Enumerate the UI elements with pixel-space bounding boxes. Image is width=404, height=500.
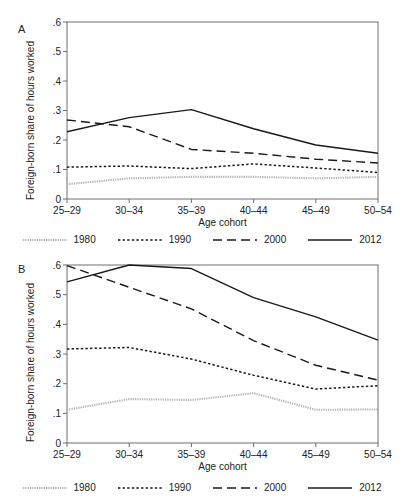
legend-item-2012[interactable]: 2012 <box>308 235 381 245</box>
legend-label-1990: 1990 <box>169 235 191 245</box>
panel-a: A Foreign-born share of hours worked 0.1… <box>0 0 404 250</box>
series-line-2000 <box>67 120 378 163</box>
y-tick-label: 0 <box>55 438 61 449</box>
y-tick-label: 0 <box>55 194 61 205</box>
x-tick-label: 50–54 <box>364 205 392 216</box>
x-tick-label: 30–34 <box>115 205 143 216</box>
x-tick-label: 25–29 <box>53 205 81 216</box>
y-tick-label: .3 <box>53 349 62 360</box>
y-tick-label: .4 <box>53 319 62 330</box>
legend-item-1990[interactable]: 1990 <box>118 483 213 493</box>
y-tick-label: .2 <box>53 378 62 389</box>
x-tick-label: 45–49 <box>302 449 330 460</box>
y-tick-label: .1 <box>53 164 62 175</box>
x-axis-title: Age cohort <box>198 217 247 228</box>
panel-b: B Foreign-born share of hours worked 0.1… <box>0 250 404 500</box>
panel-a-plot-area: 0.1.2.3.4.5.625–2930–3435–3940–4445–4950… <box>0 0 404 232</box>
series-line-1990 <box>67 164 378 173</box>
panel-a-legend: 1980199020002012 <box>0 232 404 248</box>
y-tick-label: .3 <box>53 105 62 116</box>
x-tick-label: 25–29 <box>53 449 81 460</box>
series-line-2012 <box>67 110 378 154</box>
legend-swatch-2000-icon <box>213 235 257 245</box>
x-axis-title: Age cohort <box>198 461 247 472</box>
legend-swatch-2000-icon <box>213 483 257 493</box>
legend-label-1980: 1980 <box>74 235 96 245</box>
legend-label-2012: 2012 <box>359 235 381 245</box>
y-tick-label: .4 <box>53 76 62 87</box>
x-tick-label: 35–39 <box>177 205 205 216</box>
legend-swatch-1980-icon <box>23 235 67 245</box>
legend-item-1980[interactable]: 1980 <box>23 483 118 493</box>
x-tick-label: 40–44 <box>240 205 268 216</box>
legend-item-2000[interactable]: 2000 <box>213 235 308 245</box>
legend-label-2000: 2000 <box>264 483 286 493</box>
x-tick-label: 45–49 <box>302 205 330 216</box>
y-tick-label: .6 <box>53 17 62 28</box>
panel-b-plot-area: 0.1.2.3.4.5.625–2930–3435–3940–4445–4950… <box>0 250 404 482</box>
legend-item-2012[interactable]: 2012 <box>308 483 381 493</box>
y-tick-label: .5 <box>53 46 62 57</box>
y-tick-label: .5 <box>53 289 62 300</box>
series-line-1980 <box>67 393 378 410</box>
y-tick-label: .2 <box>53 135 62 146</box>
x-tick-label: 35–39 <box>177 449 205 460</box>
legend-swatch-1990-icon <box>118 235 162 245</box>
legend-item-2000[interactable]: 2000 <box>213 483 308 493</box>
series-line-1990 <box>67 347 378 389</box>
series-line-2012 <box>67 265 378 340</box>
legend-label-1980: 1980 <box>74 483 96 493</box>
y-tick-label: .1 <box>53 408 62 419</box>
panel-b-legend: 1980199020002012 <box>0 480 404 496</box>
x-tick-label: 50–54 <box>364 449 392 460</box>
legend-swatch-1990-icon <box>118 483 162 493</box>
legend-item-1990[interactable]: 1990 <box>118 235 213 245</box>
y-tick-label: .6 <box>53 260 62 271</box>
legend-item-1980[interactable]: 1980 <box>23 235 118 245</box>
legend-swatch-2012-icon <box>308 235 352 245</box>
legend-label-2000: 2000 <box>264 235 286 245</box>
x-tick-label: 30–34 <box>115 449 143 460</box>
series-line-1980 <box>67 177 378 184</box>
figure-two-panel-line-chart: A Foreign-born share of hours worked 0.1… <box>0 0 404 500</box>
legend-swatch-2012-icon <box>308 483 352 493</box>
legend-label-2012: 2012 <box>359 483 381 493</box>
legend-swatch-1980-icon <box>23 483 67 493</box>
x-tick-label: 40–44 <box>240 449 268 460</box>
legend-label-1990: 1990 <box>169 483 191 493</box>
